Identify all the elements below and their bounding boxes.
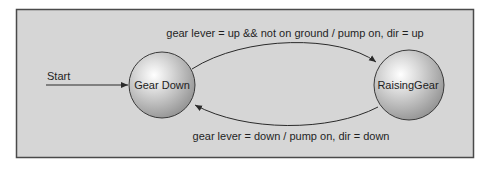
start-label: Start [47, 70, 70, 82]
state-gear-down[interactable]: Gear Down [129, 52, 195, 118]
state-raising-gear[interactable]: RaisingGear [374, 50, 444, 120]
transition-label-down: gear lever = down / pump on, dir = down [193, 130, 390, 142]
state-diagram: Start gear lever = up && not on ground /… [0, 0, 488, 170]
state-gear-down-label: Gear Down [134, 79, 190, 91]
transition-label-up: gear lever = up && not on ground / pump … [166, 27, 423, 39]
state-raising-gear-label: RaisingGear [377, 79, 438, 91]
